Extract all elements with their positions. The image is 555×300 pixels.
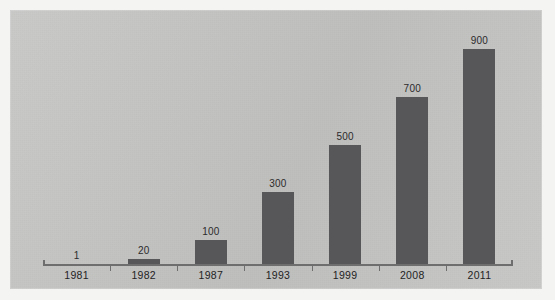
bar-slot-2011: 900 <box>446 20 513 264</box>
bar-slot-1999: 500 <box>312 20 379 264</box>
bar-1982[interactable] <box>128 259 160 264</box>
chart-panel: 120100300500700900 198119821987199319992… <box>10 10 542 289</box>
category-label-1987: 1987 <box>177 269 244 281</box>
bar-slot-2008: 700 <box>379 20 446 264</box>
bar-1999[interactable] <box>329 145 361 264</box>
category-label-2008: 2008 <box>379 269 446 281</box>
bar-2008[interactable] <box>396 97 428 264</box>
bar-value-label-1987: 100 <box>202 226 219 237</box>
category-label-1982: 1982 <box>110 269 177 281</box>
plot-area: 120100300500700900 <box>43 20 513 266</box>
bar-value-label-1981: 1 <box>74 250 80 261</box>
category-label-1981: 1981 <box>43 269 110 281</box>
bar-1987[interactable] <box>195 240 227 264</box>
bar-value-label-1993: 300 <box>269 178 286 189</box>
bar-slot-1987: 100 <box>177 20 244 264</box>
bar-slot-1981: 1 <box>43 20 110 264</box>
bar-slot-1993: 300 <box>244 20 311 264</box>
bar-value-label-2011: 900 <box>471 35 488 46</box>
category-label-1999: 1999 <box>312 269 379 281</box>
bar-value-label-1982: 20 <box>138 245 150 256</box>
bar-value-label-1999: 500 <box>336 131 353 142</box>
x-axis-line <box>43 264 513 266</box>
category-label-2011: 2011 <box>446 269 513 281</box>
category-label-1993: 1993 <box>244 269 311 281</box>
bar-1993[interactable] <box>262 192 294 264</box>
bar-2011[interactable] <box>463 49 495 264</box>
bar-slot-1982: 20 <box>110 20 177 264</box>
chart-page: 120100300500700900 198119821987199319992… <box>0 0 555 300</box>
bar-value-label-2008: 700 <box>404 83 421 94</box>
